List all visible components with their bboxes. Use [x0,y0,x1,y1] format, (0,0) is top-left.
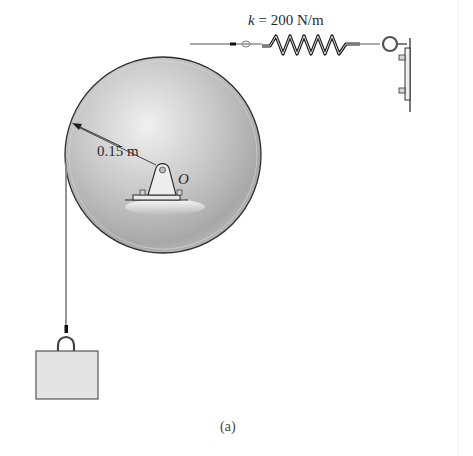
hanging-block [36,351,98,399]
radius-label: 0.15 m [97,144,139,159]
eye-bolt-icon [383,37,397,51]
spring-constant-symbol: k [248,12,255,28]
figure-caption: (a) [220,420,236,434]
spring-constant-label: k = 200 N/m [248,13,324,28]
page-edge-divider [458,0,459,456]
diagram-drawing [0,0,473,456]
spring [262,36,407,54]
pivot-pin-icon [160,167,166,173]
wall-mount [399,38,410,112]
pulley-spring-diagram: k = 200 N/m 0.15 m O (a) [0,0,473,456]
spring-constant-value: 200 N/m [271,12,324,28]
disc [65,57,261,253]
top-cable [190,41,262,47]
spring-equals-sign: = [255,12,271,28]
pivot-point-label: O [178,172,189,187]
